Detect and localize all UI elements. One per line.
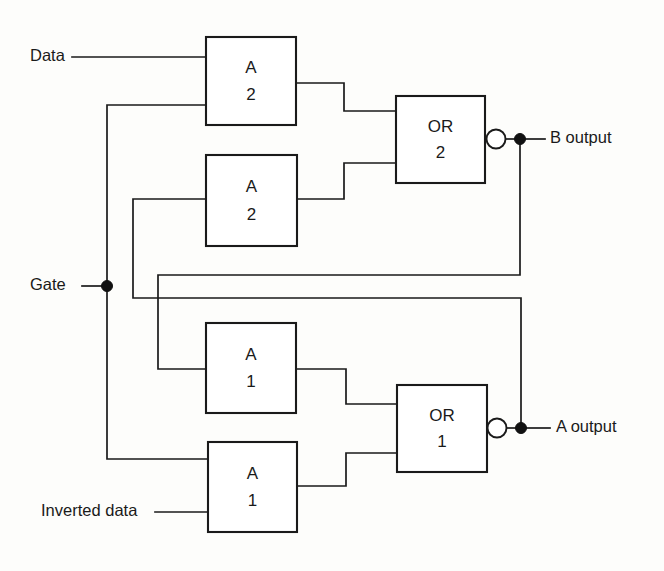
gate-label-line2-or-2: 2 xyxy=(436,143,445,162)
gate-label-line2-and-a2-top: 2 xyxy=(246,85,255,104)
gate-body-and-a1-top xyxy=(206,323,296,413)
gate-and-a2-top[interactable]: A2 xyxy=(206,37,296,125)
gate-body-or-2 xyxy=(396,96,485,183)
io-labels-layer: DataGateInverted dataB outputA output xyxy=(30,46,617,519)
gate-body-and-a2-top xyxy=(206,37,296,125)
gate-label-line1-and-a2-top: A xyxy=(245,58,257,77)
inverter-bubbles-layer xyxy=(487,130,507,438)
gate-label-line2-and-a1-top: 1 xyxy=(246,372,255,391)
logic-diagram-canvas: A2A2OR2A1A1OR1 DataGateInverted dataB ou… xyxy=(0,0,664,571)
wire-a2top-out xyxy=(296,83,396,111)
gate-body-or-1 xyxy=(397,385,487,472)
junction-gate-icon xyxy=(102,281,113,292)
output-label-a_output: A output xyxy=(556,417,617,435)
wire-a1bot-out xyxy=(297,453,397,486)
gate-body-and-a1-bottom xyxy=(208,442,297,532)
wire-a1top-out xyxy=(296,369,397,404)
gate-or-1[interactable]: OR1 xyxy=(397,385,487,472)
bubble-or2-icon xyxy=(487,130,506,149)
input-label-inverted_data: Inverted data xyxy=(41,501,138,519)
gate-label-line1-and-a2-bottom: A xyxy=(246,177,258,196)
gate-label-line2-and-a1-bottom: 1 xyxy=(248,491,257,510)
gate-label-line2-and-a2-bottom: 2 xyxy=(247,205,256,224)
wire-gate-up-to-a2top xyxy=(107,105,206,286)
bubble-or1-icon xyxy=(488,419,507,438)
gate-label-line1-or-1: OR xyxy=(429,406,455,425)
input-label-gate: Gate xyxy=(30,275,66,293)
gate-label-line2-or-1: 1 xyxy=(437,432,446,451)
gate-label-line1-and-a1-bottom: A xyxy=(247,464,259,483)
gate-and-a1-bottom[interactable]: A1 xyxy=(208,442,297,532)
gate-label-line1-and-a1-top: A xyxy=(245,345,257,364)
gate-or-2[interactable]: OR2 xyxy=(396,96,485,183)
gate-and-a1-top[interactable]: A1 xyxy=(206,323,296,413)
input-label-data: Data xyxy=(30,46,66,64)
gate-and-a2-bottom[interactable]: A2 xyxy=(206,155,297,246)
logic-diagram: A2A2OR2A1A1OR1 DataGateInverted dataB ou… xyxy=(0,0,664,571)
junction-a-output-icon xyxy=(516,423,527,434)
gate-body-and-a2-bottom xyxy=(206,155,297,246)
wire-a2bot-out xyxy=(297,163,396,199)
gate-label-line1-or-2: OR xyxy=(428,117,454,136)
junction-b-output-icon xyxy=(515,134,526,145)
output-label-b_output: B output xyxy=(550,128,612,146)
